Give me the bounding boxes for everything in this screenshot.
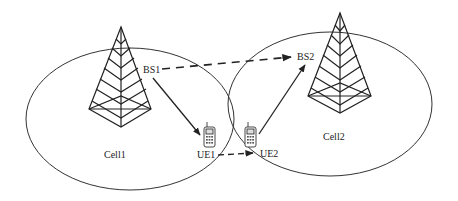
label-ue1: UE1 bbox=[197, 149, 215, 160]
link-ue1-ue2 bbox=[218, 153, 253, 155]
label-bs1: BS1 bbox=[143, 64, 160, 75]
label-bs2: BS2 bbox=[297, 51, 314, 62]
link-bs1-bs2 bbox=[162, 57, 291, 69]
phone-icon-ue1 bbox=[204, 122, 215, 147]
cell1-coverage bbox=[26, 48, 234, 190]
label-cell2: Cell2 bbox=[323, 131, 345, 142]
phone-icon-ue2 bbox=[245, 122, 256, 147]
link-bs1-ue1 bbox=[153, 78, 200, 135]
network-diagram: BS1 BS2 UE1 UE2 Cell1 Cell2 bbox=[0, 0, 458, 201]
label-cell1: Cell1 bbox=[104, 149, 126, 160]
link-ue2-bs2 bbox=[259, 65, 305, 134]
label-ue2: UE2 bbox=[260, 148, 278, 159]
tower-icon-bs2 bbox=[308, 13, 371, 113]
tower-icon-bs1 bbox=[89, 27, 151, 127]
cell2-coverage bbox=[228, 32, 432, 176]
